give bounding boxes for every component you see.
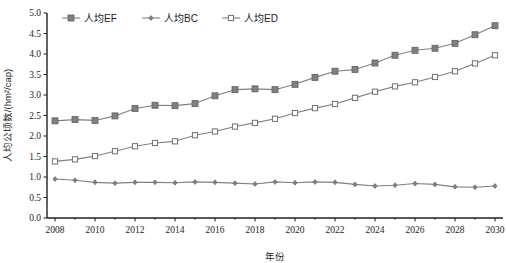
data-point-marker — [412, 80, 417, 85]
data-point-marker — [493, 184, 497, 189]
data-point-marker — [413, 181, 417, 186]
x-tick-label: 2030 — [486, 225, 505, 235]
data-point-marker — [113, 181, 117, 186]
data-point-marker — [152, 102, 158, 108]
data-point-marker — [232, 124, 237, 129]
x-tick-label: 2028 — [446, 225, 465, 235]
data-point-marker — [412, 47, 418, 53]
data-point-marker — [252, 120, 257, 125]
data-point-marker — [393, 183, 397, 188]
data-point-marker — [172, 103, 178, 109]
data-point-marker — [372, 89, 377, 94]
data-point-marker — [432, 74, 437, 79]
data-point-marker — [112, 113, 118, 119]
data-point-marker — [473, 185, 477, 190]
data-point-marker — [232, 87, 238, 93]
data-point-marker — [392, 84, 397, 89]
x-tick-label: 2010 — [86, 225, 105, 235]
data-point-marker — [173, 180, 177, 185]
data-point-marker — [52, 118, 58, 124]
x-tick-label: 2012 — [126, 225, 145, 235]
y-tick-label: 5.0 — [29, 8, 41, 18]
data-point-marker — [212, 129, 217, 134]
data-point-marker — [292, 110, 297, 115]
chart-container: 0.00.51.01.52.02.53.03.54.04.55.02008201… — [0, 0, 507, 263]
data-point-marker — [132, 106, 138, 112]
line-chart: 0.00.51.01.52.02.53.03.54.04.55.02008201… — [0, 0, 507, 263]
legend-item-人均ED[interactable]: 人均ED — [222, 13, 278, 24]
data-point-marker — [72, 117, 78, 123]
data-point-marker — [192, 101, 198, 107]
x-tick-label: 2026 — [406, 225, 425, 235]
data-point-marker — [492, 53, 497, 58]
data-point-marker — [132, 144, 137, 149]
data-point-marker — [293, 180, 297, 185]
x-axis-title: 年份 — [265, 251, 285, 262]
y-tick-label: 1.0 — [29, 172, 41, 182]
data-point-marker — [253, 181, 257, 186]
data-point-marker — [172, 139, 177, 144]
data-point-marker — [312, 74, 318, 80]
data-point-marker — [272, 87, 278, 93]
y-tick-label: 1.5 — [29, 152, 41, 162]
data-point-marker — [352, 95, 357, 100]
legend-label: 人均EF — [84, 13, 117, 24]
y-tick-label: 3.5 — [29, 70, 41, 80]
data-point-marker — [92, 117, 98, 123]
data-point-marker — [332, 68, 338, 74]
legend-item-人均BC[interactable]: 人均BC — [142, 13, 198, 24]
legend-label: 人均BC — [164, 13, 198, 24]
data-point-marker — [432, 45, 438, 51]
legend-item-人均EF[interactable]: 人均EF — [62, 13, 117, 24]
y-axis-ticks: 0.00.51.01.52.02.53.03.54.04.55.0 — [29, 8, 47, 223]
y-tick-label: 4.5 — [29, 29, 41, 39]
data-point-marker — [93, 180, 97, 185]
legend-label: 人均ED — [244, 13, 278, 24]
data-point-marker — [433, 182, 437, 187]
y-tick-label: 2.5 — [29, 111, 41, 121]
x-tick-label: 2008 — [46, 225, 65, 235]
data-point-marker — [352, 67, 358, 73]
data-point-marker — [372, 60, 378, 66]
data-point-marker — [192, 133, 197, 138]
data-point-marker — [92, 153, 97, 158]
data-point-marker — [373, 184, 377, 189]
data-point-marker — [252, 86, 258, 92]
y-axis-title: 人均公顷数/(hm²/cap) — [2, 69, 13, 162]
data-point-marker — [68, 15, 74, 21]
data-point-marker — [313, 179, 317, 184]
series-line — [55, 26, 495, 121]
data-point-marker — [112, 149, 117, 154]
data-point-marker — [212, 93, 218, 99]
x-tick-label: 2018 — [246, 225, 265, 235]
x-tick-label: 2016 — [206, 225, 225, 235]
data-point-marker — [53, 177, 57, 182]
data-point-marker — [452, 40, 458, 46]
series-人均BC — [53, 177, 497, 190]
data-point-marker — [453, 184, 457, 189]
data-point-marker — [472, 61, 477, 66]
series-人均EF — [52, 23, 498, 124]
series-人均ED — [52, 53, 497, 164]
data-point-marker — [73, 178, 77, 183]
data-point-marker — [472, 32, 478, 38]
x-axis-ticks: 2008201020122014201620182020202220242026… — [46, 218, 505, 235]
y-tick-label: 0.5 — [29, 193, 41, 203]
x-tick-label: 2020 — [286, 225, 305, 235]
data-point-marker — [272, 116, 277, 121]
data-point-marker — [332, 101, 337, 106]
data-point-marker — [392, 52, 398, 58]
data-point-marker — [312, 106, 317, 111]
data-point-marker — [333, 180, 337, 185]
data-point-marker — [52, 159, 57, 164]
x-tick-label: 2014 — [166, 225, 185, 235]
data-point-marker — [152, 140, 157, 145]
data-point-marker — [153, 180, 157, 185]
y-tick-label: 4.0 — [29, 49, 41, 59]
data-point-marker — [228, 15, 233, 20]
series-line — [55, 55, 495, 161]
data-point-marker — [72, 157, 77, 162]
x-tick-label: 2022 — [326, 225, 345, 235]
data-point-marker — [292, 81, 298, 87]
data-point-marker — [492, 23, 498, 29]
